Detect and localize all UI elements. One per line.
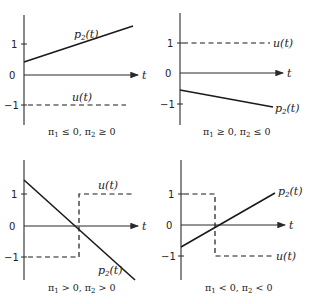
figure-switching-cases: 1 0 −1 t p2(t) u(t) π1 ≤ 0, π2 ≥ 0 1 0 −…	[0, 0, 310, 304]
tick-label-0: 0	[166, 220, 172, 231]
t-axis-label: t	[287, 67, 292, 80]
p2-line	[180, 90, 273, 107]
t-axis-label: t	[142, 69, 147, 82]
u-label: u(t)	[276, 250, 296, 263]
t-axis-label: t	[289, 219, 294, 232]
caption-top-left: π1 ≤ 0, π2 ≥ 0	[48, 126, 116, 139]
tick-label-minus1: −1	[160, 99, 175, 110]
tick-label-0: 0	[165, 68, 171, 79]
tick-label-minus1: −1	[4, 252, 19, 263]
p2-label: p2(t)	[74, 28, 99, 42]
t-axis-label: t	[142, 220, 147, 233]
panel-top-left: 1 0 −1 t p2(t) u(t) π1 ≤ 0, π2 ≥ 0	[4, 15, 147, 139]
caption-bottom-left: π1 > 0, π2 > 0	[48, 282, 116, 295]
tick-label-0: 0	[9, 221, 15, 232]
u-label: u(t)	[98, 179, 118, 192]
panel-top-right: 1 0 −1 t u(t) p2(t) π1 ≥ 0, π2 ≤ 0	[160, 13, 300, 139]
tick-label-minus1: −1	[4, 100, 19, 111]
tick-label-minus1: −1	[161, 251, 176, 262]
panel-bottom-right: 1 0 −1 t u(t) p2(t) π1 < 0, π2 < 0	[161, 160, 303, 295]
caption-top-right: π1 ≥ 0, π2 ≤ 0	[203, 126, 271, 139]
tick-label-0: 0	[9, 70, 15, 81]
p2-label: p2(t)	[98, 264, 123, 278]
caption-bottom-right: π1 < 0, π2 < 0	[205, 282, 273, 295]
p2-label: p2(t)	[275, 102, 300, 116]
p2-line	[181, 193, 275, 247]
tick-label-1: 1	[11, 39, 17, 50]
p2-label: p2(t)	[278, 185, 303, 199]
u-label: u(t)	[273, 37, 293, 50]
tick-label-1: 1	[168, 189, 174, 200]
tick-label-1: 1	[167, 38, 173, 49]
u-label: u(t)	[72, 91, 92, 104]
panel-bottom-left: 1 0 −1 t u(t) p2(t) π1 > 0, π2 > 0	[4, 160, 147, 295]
tick-label-1: 1	[11, 189, 17, 200]
